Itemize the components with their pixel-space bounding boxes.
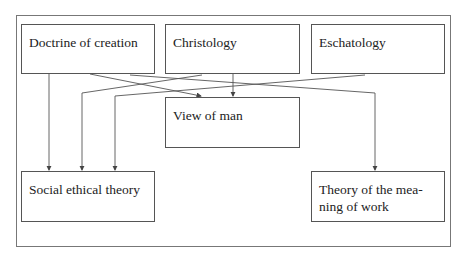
node-christology: Christology (165, 24, 300, 74)
node-label: View of man (173, 108, 243, 123)
node-theory-meaning-of-work: Theory of the mea-ning of work (311, 171, 445, 222)
node-label-line2: ning of work (319, 198, 444, 215)
node-doctrine-of-creation: Doctrine of creation (21, 24, 155, 74)
node-eschatology: Eschatology (311, 24, 445, 74)
node-label: Christology (173, 35, 237, 50)
node-label: Doctrine of creation (29, 35, 138, 50)
node-social-ethical-theory: Social ethical theory (21, 171, 155, 222)
node-label-line1: Theory of the mea- (319, 181, 444, 198)
node-label: Eschatology (319, 35, 386, 50)
node-view-of-man: View of man (165, 97, 300, 148)
node-label: Social ethical theory (29, 182, 140, 197)
